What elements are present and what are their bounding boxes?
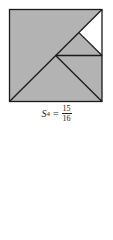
partial-sum-caption: S4 = 15 16: [0, 104, 113, 123]
equals-sign: =: [53, 108, 59, 119]
fraction: 15 16: [62, 104, 72, 123]
fraction-numerator: 15: [62, 104, 72, 114]
sum-subscript: 4: [46, 110, 50, 118]
fraction-denominator: 16: [63, 114, 71, 123]
